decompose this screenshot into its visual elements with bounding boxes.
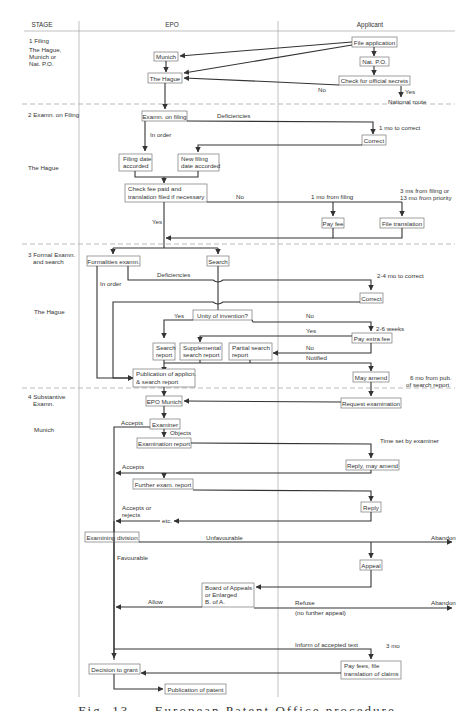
svg-text:Request examination: Request examination — [342, 400, 401, 407]
box-new-filing-date: New filing date accorded — [178, 154, 221, 171]
svg-text:& search report: & search report — [136, 378, 179, 385]
label-allow: Allow — [148, 598, 163, 605]
box-epo-munich: EPO Munich — [146, 396, 182, 406]
svg-text:May amend: May amend — [355, 374, 388, 381]
label-notified: Notified — [306, 354, 328, 361]
svg-text:Nat. P.O.: Nat. P.O. — [362, 58, 387, 65]
label-2-4mo-correct: 2-4 mo to correct — [377, 272, 424, 279]
svg-text:Munich: Munich — [34, 426, 55, 433]
box-supplemental-search-report: Supplemental search report — [180, 343, 222, 360]
label-objects: Objects — [170, 429, 191, 436]
label-1mo-correct: 1 mo to correct — [379, 124, 421, 131]
label-favourable: Favourable — [117, 554, 149, 561]
label-yes-extra-fee: Yes — [306, 327, 316, 334]
svg-text:Pay fees, file: Pay fees, file — [344, 662, 380, 669]
label-in-order-1: In order — [150, 131, 171, 138]
figure-caption: Fig. 13 — European Patent Office procedu… — [0, 700, 474, 711]
label-accepts-or: Accepts or — [122, 504, 151, 511]
svg-text:Check for official secrets: Check for official secrets — [341, 77, 408, 84]
box-correct-2: Correct — [360, 293, 383, 303]
svg-text:Board of Appeals: Board of Appeals — [205, 584, 252, 591]
svg-text:Check fee paid and: Check fee paid and — [128, 185, 182, 192]
label-unfavourable: Unfavourable — [206, 534, 243, 541]
stage-2-label: 2 Examn. on Filing The Hague — [28, 111, 80, 171]
svg-text:search report: search report — [183, 351, 220, 358]
label-accepts-1: Accepts — [121, 419, 143, 426]
svg-text:Formalities examn.: Formalities examn. — [87, 258, 140, 265]
column-header-epo: EPO — [165, 21, 179, 28]
label-no-secrets: No — [318, 86, 326, 93]
svg-text:The Hague: The Hague — [34, 308, 65, 315]
box-examination-report: Examination report — [137, 438, 191, 448]
svg-text:Unity of invention?: Unity of invention? — [197, 312, 248, 319]
svg-text:report: report — [156, 351, 172, 358]
label-yes-secrets: Yes — [405, 88, 415, 95]
box-nat-po: Nat. P.O. — [360, 57, 389, 66]
stage-4-label: 4 Substantive Examn. Munich — [28, 393, 66, 433]
box-correct-1: Correct — [362, 135, 386, 145]
svg-text:New filing: New filing — [181, 155, 208, 162]
label-refuse: Refuse — [295, 599, 315, 606]
label-6mo-pub: 6 mo from pub. — [410, 374, 452, 381]
svg-text:Search: Search — [156, 344, 176, 351]
box-unity-of-invention: Unity of invention? — [193, 310, 252, 320]
svg-text:Examining division: Examining division — [86, 534, 138, 541]
svg-text:Examiner: Examiner — [152, 421, 178, 428]
label-search-report-ref: of search report — [406, 381, 450, 388]
svg-text:accorded: accorded — [123, 162, 149, 169]
box-decision-to-grant: Decision to grant — [89, 664, 140, 674]
label-etc: etc. — [162, 517, 172, 524]
box-board-of-appeals: Board of Appeals or Enlarged B. of A. — [202, 583, 254, 607]
box-check-secrets: Check for official secrets — [339, 76, 410, 85]
epo-procedure-flowchart: STAGE EPO Applicant 1 Filing The Hague, … — [0, 0, 474, 711]
svg-text:Appeal: Appeal — [361, 562, 380, 569]
box-search: Search — [207, 256, 229, 266]
box-reply: Reply — [361, 502, 381, 512]
label-national-route: National route — [388, 98, 427, 105]
svg-text:Supplemental: Supplemental — [183, 344, 221, 351]
box-further-exam-report: Further exam. report — [133, 479, 193, 489]
label-accepts-2: Accepts — [122, 463, 144, 470]
svg-text:Search: Search — [208, 258, 228, 265]
label-no-fee: No — [236, 193, 244, 200]
svg-text:Publication of applicn.: Publication of applicn. — [136, 370, 196, 377]
svg-text:Examn. on filing: Examn. on filing — [142, 113, 187, 120]
box-examn-on-filing: Examn. on filing — [142, 111, 187, 121]
box-publication-applicn: Publication of applicn. & search report — [133, 369, 196, 387]
svg-text:Examn.: Examn. — [33, 400, 54, 407]
box-the-hague: The Hague — [148, 73, 182, 83]
svg-text:Munich: Munich — [156, 53, 177, 60]
svg-text:Nat. P.O.: Nat. P.O. — [29, 60, 54, 67]
box-reply-may-amend: Reply, may amend — [346, 460, 399, 470]
box-file-translation: File translation — [380, 218, 424, 228]
box-request-examination: Request examination — [341, 398, 401, 408]
label-no-further-appeal: (no further appeal) — [295, 609, 346, 616]
svg-text:Decision to grant: Decision to grant — [91, 666, 138, 673]
svg-text:translation of claims: translation of claims — [344, 670, 399, 677]
svg-text:Reply: Reply — [363, 504, 380, 511]
svg-text:The Hague: The Hague — [150, 75, 181, 82]
label-no-extra-fee: No — [306, 344, 314, 351]
label-deficiencies-1: Deficiencies — [217, 112, 250, 119]
box-pay-fees-translation: Pay fees, file translation of claims — [341, 661, 401, 679]
label-in-order-2: In order — [100, 280, 121, 287]
svg-text:translation filed if necessary: translation filed if necessary — [128, 193, 205, 200]
svg-text:File translation: File translation — [382, 220, 423, 227]
stage-3-label: 3 Formal Examn. and search The Hague — [28, 251, 75, 315]
svg-text:Correct: Correct — [364, 137, 385, 144]
box-examiner: Examiner — [150, 419, 180, 429]
label-3mo: 3 mo — [386, 642, 400, 649]
svg-text:Correct: Correct — [361, 295, 382, 302]
box-pay-fee: Pay fee — [322, 218, 344, 228]
box-examining-division: Examining division — [85, 532, 139, 542]
svg-text:Munich or: Munich or — [29, 53, 56, 60]
svg-text:Partial search: Partial search — [232, 344, 270, 351]
box-may-amend: May amend — [353, 372, 389, 382]
label-rejects: rejects — [122, 511, 140, 518]
box-file-application: File application — [352, 37, 397, 47]
label-yes-fee: Yes — [152, 218, 162, 225]
svg-text:The Hague,: The Hague, — [29, 46, 62, 53]
label-no-unity: No — [306, 312, 314, 319]
svg-text:report: report — [232, 351, 248, 358]
svg-text:1 Filing: 1 Filing — [29, 37, 50, 44]
